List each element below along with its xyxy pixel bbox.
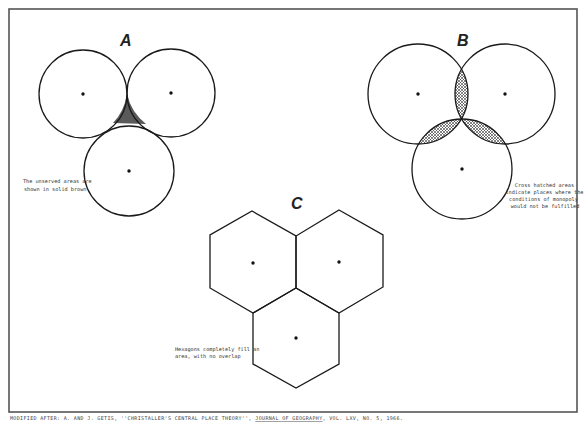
journal-title: JOURNAL OF GEOGRAPHY xyxy=(255,415,322,421)
central-place-dot xyxy=(127,169,130,172)
central-place-dot xyxy=(503,92,506,95)
panel-b-label: B xyxy=(457,32,469,49)
panel-c-note: Hexagons completely fill an area, with n… xyxy=(175,346,262,360)
panel-b: B Cross hatched areas indicate places wh… xyxy=(368,32,587,219)
panel-a-note: The unserved areas are shown in solid br… xyxy=(23,178,95,192)
central-place-dot xyxy=(460,167,463,170)
central-place-dot xyxy=(169,91,172,94)
source-citation: MODIFIED AFTER: A. AND J. GETIS, ''CHRIS… xyxy=(10,415,403,421)
central-place-dot xyxy=(251,261,254,264)
central-place-dot xyxy=(81,92,84,95)
central-place-dot xyxy=(337,260,340,263)
panel-c-label: C xyxy=(291,195,303,212)
panel-a: A The unserved areas are shown in solid … xyxy=(23,32,215,216)
central-place-dot xyxy=(416,92,419,95)
panel-b-note: Cross hatched areas indicate places wher… xyxy=(505,182,586,209)
central-place-figure: A The unserved areas are shown in solid … xyxy=(0,0,587,425)
central-place-dot xyxy=(294,336,297,339)
panel-c: C Hexagons completely fill an area, with… xyxy=(175,195,383,388)
panel-a-label: A xyxy=(119,32,132,49)
